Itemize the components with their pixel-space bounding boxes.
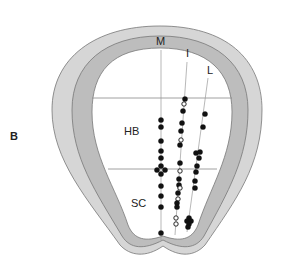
filled-cell-marker <box>158 148 163 153</box>
open-cell-marker <box>179 138 183 142</box>
filled-cell-marker <box>179 120 184 125</box>
filled-cell-marker <box>178 128 183 133</box>
filled-cell-marker <box>197 149 202 154</box>
column-label-medial: M <box>156 35 165 47</box>
filled-cell-marker <box>185 224 190 229</box>
embryo-diagram: M I L HB SC <box>0 0 290 269</box>
filled-cell-marker <box>158 117 163 122</box>
filled-cell-marker <box>158 183 163 188</box>
filled-cell-marker <box>158 230 163 235</box>
filled-cell-marker <box>200 124 205 129</box>
filled-cell-marker <box>193 169 198 174</box>
region-label-hindbrain: HB <box>124 125 139 137</box>
column-label-lateral: L <box>207 64 213 76</box>
filled-cell-marker <box>192 185 197 190</box>
filled-cell-marker <box>194 163 199 168</box>
filled-cell-marker <box>158 204 163 209</box>
open-cell-marker <box>178 186 182 190</box>
filled-cell-marker <box>196 155 201 160</box>
filled-cell-marker <box>192 178 197 183</box>
open-cell-marker <box>178 169 182 173</box>
panel-label: B <box>10 130 18 142</box>
open-cell-marker <box>174 222 178 226</box>
open-cell-marker <box>182 102 186 106</box>
column-label-intermediate: I <box>186 47 189 59</box>
filled-cell-marker <box>182 96 187 101</box>
filled-cell-marker <box>174 204 179 209</box>
filled-cell-marker <box>180 108 185 113</box>
region-label-spinal-cord: SC <box>131 197 146 209</box>
filled-cell-marker <box>154 167 159 172</box>
filled-cell-marker <box>158 124 163 129</box>
filled-cell-marker <box>158 171 163 176</box>
filled-cell-marker <box>158 138 163 143</box>
filled-cell-marker <box>177 142 182 147</box>
filled-cell-marker <box>202 111 207 116</box>
filled-cell-marker <box>177 160 182 165</box>
open-cell-marker <box>174 216 178 220</box>
filled-cell-marker <box>176 176 181 181</box>
filled-cell-marker <box>158 193 163 198</box>
filled-cell-marker <box>162 167 167 172</box>
filled-cell-marker <box>158 163 163 168</box>
filled-cell-marker <box>158 155 163 160</box>
filled-cell-marker <box>175 190 180 195</box>
